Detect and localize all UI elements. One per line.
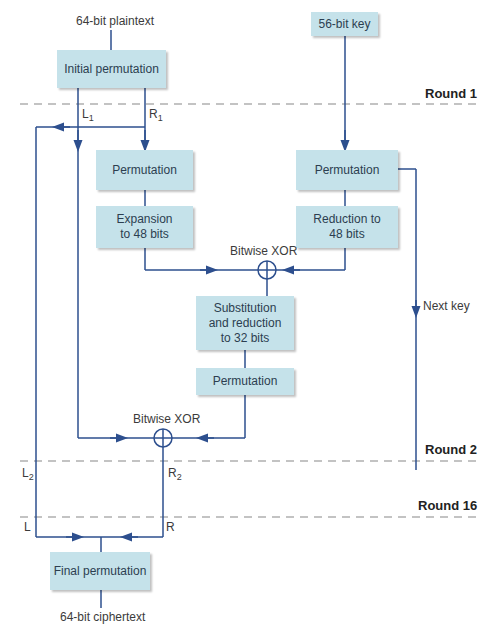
xor-1-label: Bitwise XOR — [230, 244, 297, 258]
r2-label: R2 — [168, 466, 182, 482]
r-label: R — [166, 520, 175, 534]
permutation-box: Permutation — [96, 150, 193, 190]
permutation-after-sub-box: Permutation — [196, 368, 294, 395]
key-reduction-box: Reduction to 48 bits — [296, 206, 398, 248]
xor-2-label: Bitwise XOR — [133, 412, 200, 426]
key-input-box: 56-bit key — [311, 12, 378, 36]
plaintext-label: 64-bit plaintext — [76, 14, 154, 28]
round-16-label: Round 16 — [418, 498, 477, 513]
next-key-label: Next key — [423, 299, 470, 313]
round-1-label: Round 1 — [425, 86, 477, 101]
r1-label: R1 — [149, 107, 163, 123]
final-permutation-box: Final permutation — [50, 552, 150, 590]
substitution-box: Substitution and reduction to 32 bits — [196, 296, 294, 350]
l-label: L — [24, 520, 31, 534]
key-permutation-box: Permutation — [296, 150, 398, 190]
l1-label: L1 — [82, 107, 94, 123]
expansion-box: Expansion to 48 bits — [96, 206, 193, 248]
l2-label: L2 — [22, 466, 34, 482]
initial-permutation-box: Initial permutation — [57, 50, 166, 88]
round-2-label: Round 2 — [425, 442, 477, 457]
ciphertext-label: 64-bit ciphertext — [60, 610, 145, 624]
